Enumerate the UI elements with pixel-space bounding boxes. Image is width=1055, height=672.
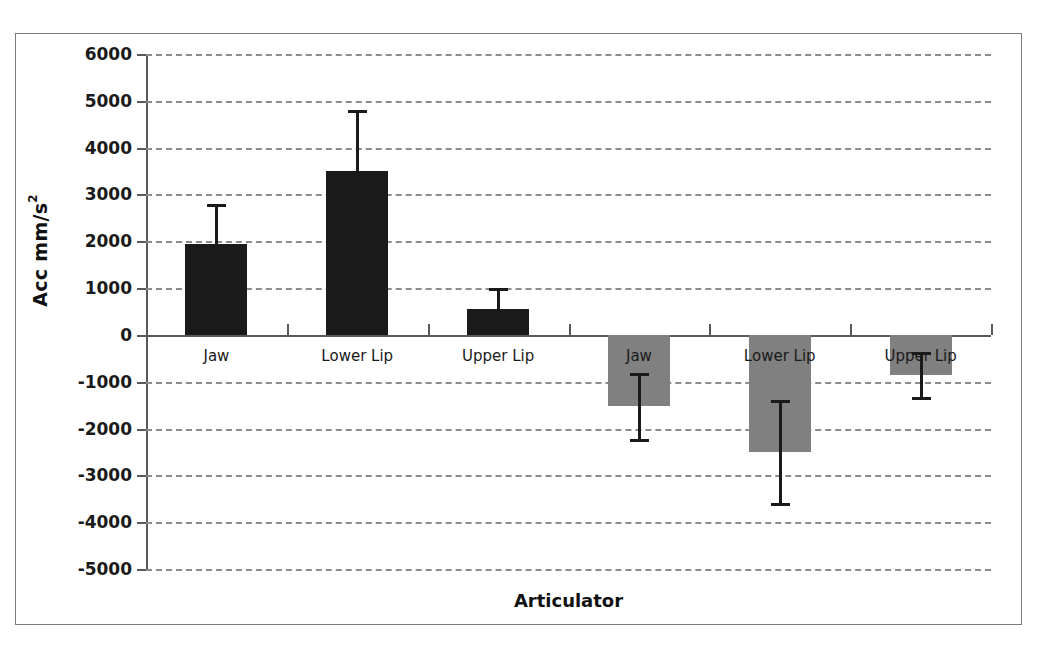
y-tick-label: 0 [120, 325, 132, 345]
gridline [146, 569, 991, 571]
error-bar-cap [489, 288, 508, 291]
y-tick-label: -4000 [78, 512, 132, 532]
error-bar-line [356, 110, 359, 232]
x-axis-tick [991, 324, 993, 335]
error-bar-cap [348, 110, 367, 113]
bar-category-slot: Jaw [569, 54, 710, 569]
bar-category-slot: Upper Lip [850, 54, 991, 569]
y-axis-tick [137, 569, 146, 571]
error-bar-cap [912, 397, 931, 400]
y-axis-tick [137, 101, 146, 103]
y-axis-tick [137, 475, 146, 477]
x-axis-tick [569, 324, 571, 335]
x-category-label: Upper Lip [850, 347, 991, 365]
error-bar-cap [771, 503, 790, 506]
y-tick-label: 2000 [85, 231, 132, 251]
error-bar-cap [771, 400, 790, 403]
y-axis-tick [137, 241, 146, 243]
x-category-label: Upper Lip [428, 347, 569, 365]
y-axis-tick [137, 288, 146, 290]
y-axis-tick [137, 148, 146, 150]
y-tick-label: 4000 [85, 138, 132, 158]
x-axis-tick [287, 324, 289, 335]
x-axis-tick [709, 324, 711, 335]
figure-frame: Acc mm/s2 6000500040003000200010000-1000… [15, 33, 1022, 625]
y-axis-tick [137, 382, 146, 384]
plot-area: JawLower LipUpper LipJawLower LipUpper L… [146, 54, 991, 569]
x-category-label: Lower Lip [287, 347, 428, 365]
y-axis-tick [137, 54, 146, 56]
error-bar-line [215, 204, 218, 284]
y-axis-tick [137, 335, 146, 337]
bar-category-slot: Lower Lip [709, 54, 850, 569]
y-tick-label: -3000 [78, 465, 132, 485]
y-tick-label: 6000 [85, 44, 132, 64]
y-axis-tick [137, 194, 146, 196]
y-tick-label: -5000 [78, 559, 132, 579]
x-axis-title: Articulator [146, 590, 991, 611]
bar-category-slot: Upper Lip [428, 54, 569, 569]
error-bar-cap [630, 439, 649, 442]
y-tick-label: 5000 [85, 91, 132, 111]
x-category-label: Lower Lip [709, 347, 850, 365]
error-bar-line [638, 373, 641, 439]
y-tick-label: -2000 [78, 419, 132, 439]
bar-category-slot: Lower Lip [287, 54, 428, 569]
y-tick-label: -1000 [78, 372, 132, 392]
error-bar-cap [630, 373, 649, 376]
bar-category-slot: Jaw [146, 54, 287, 569]
y-tick-label: 1000 [85, 278, 132, 298]
x-category-label: Jaw [146, 347, 287, 365]
error-bar-line [497, 288, 500, 329]
y-tick-label: 3000 [85, 184, 132, 204]
y-tick-label-group: 6000500040003000200010000-1000-2000-3000… [16, 34, 146, 624]
error-bar-cap [207, 204, 226, 207]
y-axis-tick [137, 522, 146, 524]
x-category-label: Jaw [569, 347, 710, 365]
x-axis-tick [428, 324, 430, 335]
y-axis-tick [137, 429, 146, 431]
error-bar-line [779, 400, 782, 503]
x-axis-tick [850, 324, 852, 335]
